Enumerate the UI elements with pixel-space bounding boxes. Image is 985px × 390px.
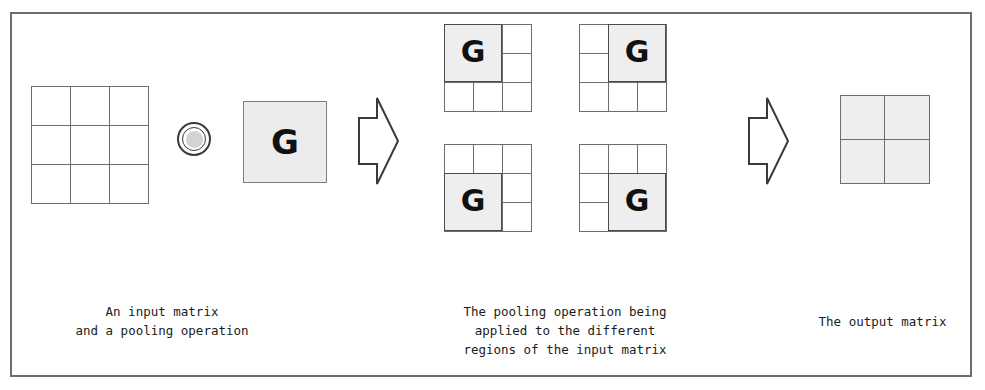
input-cell-r0c0	[31, 86, 71, 126]
cell-r1c0	[579, 53, 609, 83]
pooling-diagram-figure: G G	[0, 0, 985, 390]
arrow-result-icon	[745, 96, 791, 190]
output-matrix	[840, 95, 929, 183]
cell-r0c2	[637, 144, 667, 174]
output-cell-r1c0	[840, 139, 886, 184]
region-glyph-bottom-left: G	[461, 186, 486, 216]
cell-r0c0	[579, 24, 609, 54]
region-highlight-top-left: G	[444, 24, 502, 82]
cell-r2c1	[473, 82, 503, 112]
cell-r1c2	[502, 53, 532, 83]
cell-r2c2	[637, 82, 667, 112]
input-cell-r0c2	[109, 86, 149, 126]
operator-inner-ring	[182, 127, 206, 151]
diagram-stage: G G	[0, 0, 985, 390]
pooling-operation-glyph: G	[271, 125, 299, 159]
cell-r2c0	[579, 202, 609, 232]
cell-r2c2	[502, 202, 532, 232]
caption-input: An input matrix and a pooling operation	[42, 302, 282, 340]
input-cell-r1c0	[31, 125, 71, 165]
output-cell-r0c1	[884, 95, 930, 140]
input-matrix	[31, 86, 148, 203]
region-glyph-bottom-right: G	[625, 186, 650, 216]
region-glyph-top-left: G	[461, 37, 486, 67]
pooling-operation-square: G	[243, 101, 327, 183]
input-cell-r2c1	[70, 164, 110, 204]
cell-r0c2	[502, 24, 532, 54]
cell-r0c1	[608, 144, 638, 174]
circled-operator-icon	[177, 122, 211, 156]
output-cell-r0c0	[840, 95, 886, 140]
region-highlight-top-right: G	[608, 24, 666, 82]
input-cell-r0c1	[70, 86, 110, 126]
cell-r2c2	[502, 82, 532, 112]
arrow-apply-icon	[355, 96, 401, 190]
output-cell-r1c1	[884, 139, 930, 184]
cell-r0c0	[579, 144, 609, 174]
region-highlight-bottom-left: G	[444, 173, 502, 231]
input-cell-r2c2	[109, 164, 149, 204]
cell-r0c0	[444, 144, 474, 174]
caption-pooling: The pooling operation being applied to t…	[415, 302, 715, 359]
caption-output: The output matrix	[790, 312, 975, 331]
region-highlight-bottom-right: G	[608, 173, 666, 231]
cell-r2c1	[608, 82, 638, 112]
cell-r2c0	[444, 82, 474, 112]
region-glyph-top-right: G	[625, 37, 650, 67]
cell-r2c0	[579, 82, 609, 112]
operator-inner-dot	[186, 131, 203, 148]
cell-r1c2	[502, 173, 532, 203]
input-cell-r2c0	[31, 164, 71, 204]
input-cell-r1c2	[109, 125, 149, 165]
cell-r0c1	[473, 144, 503, 174]
cell-r0c2	[502, 144, 532, 174]
cell-r1c0	[579, 173, 609, 203]
input-cell-r1c1	[70, 125, 110, 165]
